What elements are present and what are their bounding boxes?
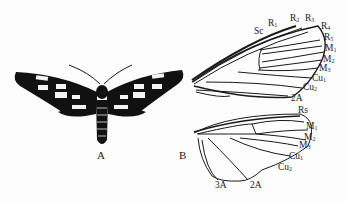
- vein-label-cu1-hindwing: Cu1: [289, 152, 303, 162]
- vein-label-r2: R2: [290, 14, 299, 24]
- vein-label-r4: R4: [321, 22, 330, 32]
- vein-label-cu2-hindwing: Cu2: [278, 163, 292, 173]
- vein-label-m3-hindwing: M3: [299, 141, 310, 151]
- vein-label-m1-hindwing: M1: [306, 122, 317, 132]
- vein-label-rs: Rs: [298, 106, 308, 116]
- vein-label-m1: M1: [325, 44, 336, 54]
- moth-wing-figure: A B Sc R1 R2 R3 R4 R5 M1 M2 M3 Cu1 Cu2 2…: [0, 0, 348, 202]
- vein-label-r3: R3: [305, 14, 314, 24]
- panel-label-b: B: [179, 150, 186, 161]
- vein-label-sc: Sc: [254, 27, 264, 37]
- panel-label-a: A: [97, 150, 105, 161]
- vein-label-cu2: Cu2: [303, 83, 317, 93]
- vein-label-r5: R5: [324, 33, 333, 43]
- vein-label-3a: 3A: [215, 181, 227, 191]
- vein-label-2a-hindwing: 2A: [250, 181, 262, 191]
- vein-label-2a-forewing: 2A: [291, 94, 303, 104]
- vein-label-r1: R1: [268, 19, 277, 29]
